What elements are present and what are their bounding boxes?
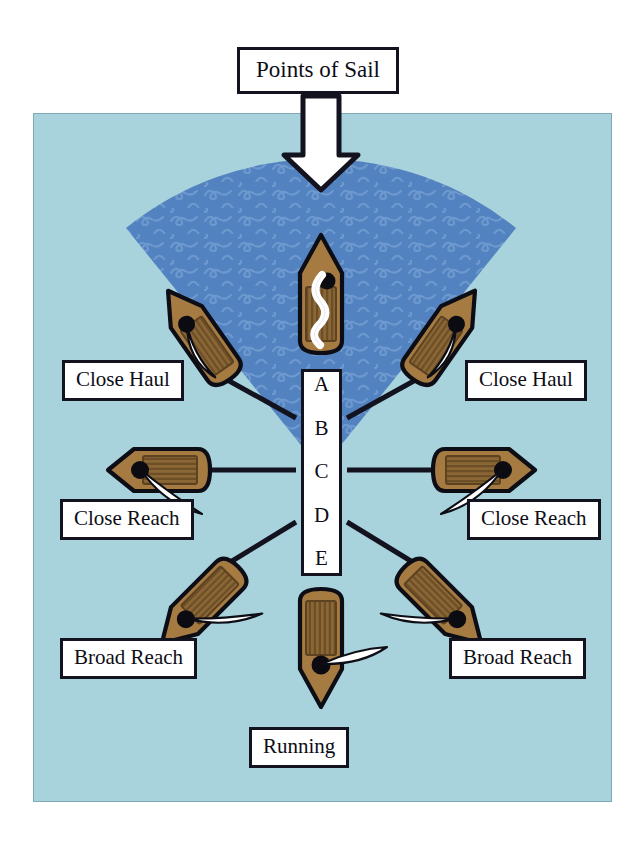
letter-e: E xyxy=(315,548,328,569)
point-of-sail-letter-column: A B C D E xyxy=(301,369,342,576)
letter-b: B xyxy=(314,418,328,439)
letter-d: D xyxy=(314,505,329,526)
ray-broad-reach-right xyxy=(347,522,419,566)
ray-broad-reach-left xyxy=(224,522,296,566)
label-close-reach-left: Close Reach xyxy=(60,499,194,540)
boat-running xyxy=(300,589,387,707)
label-close-reach-right: Close Reach xyxy=(467,499,601,540)
label-broad-reach-right: Broad Reach xyxy=(449,638,586,679)
label-close-haul-right: Close Haul xyxy=(465,360,587,401)
letter-a: A xyxy=(314,374,329,395)
page-title: Points of Sail xyxy=(237,47,399,94)
label-running: Running xyxy=(249,727,349,768)
diagram-stage: Points of Sail A B C D E Close Haul Clos… xyxy=(0,0,644,853)
letter-c: C xyxy=(314,461,328,482)
label-close-haul-left: Close Haul xyxy=(62,360,184,401)
label-broad-reach-left: Broad Reach xyxy=(60,638,197,679)
